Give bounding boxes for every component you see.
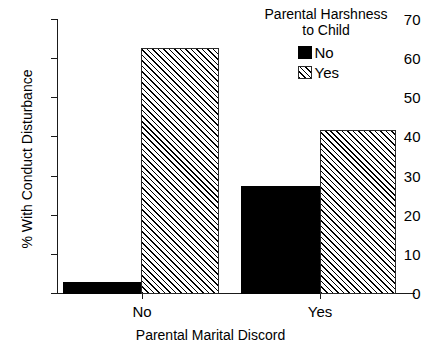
bar-no-discord-yes-harshness xyxy=(141,48,219,294)
legend-title-line-2: to Child xyxy=(236,22,416,38)
y-tick-label-50: 50 xyxy=(377,90,421,105)
legend-swatch-solid-icon xyxy=(298,46,312,59)
x-axis-title: Parental Marital Discord xyxy=(0,327,421,343)
y-tick-0 xyxy=(51,293,57,294)
legend-label-no: No xyxy=(315,44,355,61)
y-tick-10 xyxy=(51,254,57,255)
y-tick-20 xyxy=(51,215,57,216)
y-tick-40 xyxy=(51,136,57,137)
y-tick-60 xyxy=(51,58,57,59)
y-axis-title-container: % With Conduct Disturbance xyxy=(18,19,36,299)
y-tick-30 xyxy=(51,176,57,177)
bar-no-discord-no-harshness xyxy=(63,282,142,294)
x-tick-label-yes: Yes xyxy=(275,303,365,320)
legend-title-line-1: Parental Harshness xyxy=(236,6,416,22)
legend-item-yes[interactable]: Yes xyxy=(236,64,416,81)
y-tick-50 xyxy=(51,97,57,98)
bar-chart: 70 60 50 40 30 20 10 0 No Yes Parental M… xyxy=(0,0,421,346)
legend-label-yes: Yes xyxy=(315,64,355,81)
x-tick-yes xyxy=(320,294,321,299)
y-axis-line xyxy=(57,19,58,294)
y-axis-title: % With Conduct Disturbance xyxy=(19,70,35,249)
legend-entries: No Yes xyxy=(236,44,416,81)
y-tick-70 xyxy=(51,19,57,20)
legend-item-no[interactable]: No xyxy=(236,44,416,61)
x-tick-no xyxy=(142,294,143,299)
legend: Parental Harshness to Child No Yes xyxy=(236,6,416,84)
bar-yes-discord-yes-harshness xyxy=(320,130,396,294)
x-tick-label-no: No xyxy=(97,303,187,320)
bar-yes-discord-no-harshness xyxy=(241,186,320,294)
legend-swatch-hatch-icon xyxy=(298,66,312,79)
